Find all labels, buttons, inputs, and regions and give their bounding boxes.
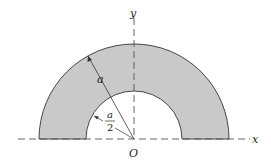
inner-radius-denominator: 2 (107, 122, 113, 133)
origin-label: O (129, 147, 138, 160)
inner-radius-arrowhead (94, 116, 99, 120)
y-axis-label: y (129, 7, 137, 20)
inner-radius-numerator: a (107, 109, 113, 120)
diagram-canvas: y x O a a 2 (0, 0, 271, 166)
outer-radius-label: a (97, 73, 104, 86)
annulus-region (39, 44, 229, 139)
x-axis-label: x (252, 133, 259, 146)
